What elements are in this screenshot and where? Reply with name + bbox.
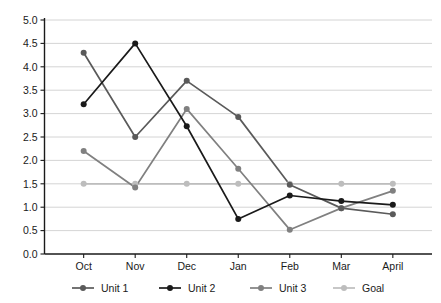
y-tick-label: 3.5 [23, 84, 38, 96]
gridlines [45, 20, 433, 231]
data-point [287, 182, 293, 188]
y-tick-label: 3.0 [23, 107, 38, 119]
data-point [81, 101, 87, 107]
x-tick-label: April [382, 260, 403, 272]
data-point [184, 123, 190, 129]
data-point [235, 166, 241, 172]
series-line-unit-1 [84, 53, 393, 214]
data-point [390, 211, 396, 217]
y-tick-label: 1.0 [23, 201, 38, 213]
data-point [132, 185, 138, 191]
y-tick-label: 1.5 [23, 178, 38, 190]
y-tick-label: 2.0 [23, 154, 38, 166]
legend-swatch-marker [167, 285, 173, 291]
x-tick-label: Feb [281, 260, 299, 272]
data-point [338, 205, 344, 211]
data-point [338, 198, 344, 204]
data-point [390, 188, 396, 194]
data-point [287, 227, 293, 233]
y-tick-label: 0.0 [23, 248, 38, 260]
data-point [81, 148, 87, 154]
y-tick-label: 4.0 [23, 61, 38, 73]
data-point [184, 106, 190, 112]
data-point [338, 181, 344, 187]
x-tick-label: Mar [332, 260, 351, 272]
x-tick-label: Jan [230, 260, 247, 272]
data-point [81, 181, 87, 187]
data-point [390, 202, 396, 208]
y-tick-label: 2.5 [23, 131, 38, 143]
chart-canvas: 5.04.54.03.53.02.52.01.51.00.50.0 OctNov… [0, 0, 441, 303]
data-point [132, 134, 138, 140]
data-point [184, 181, 190, 187]
data-point [235, 181, 241, 187]
y-tick-label: 5.0 [23, 14, 38, 26]
y-axis: 5.04.54.03.53.02.52.01.51.00.50.0 [23, 14, 45, 260]
chart-legend: Unit 1Unit 2Unit 3Goal [72, 282, 384, 294]
legend-swatch-marker [341, 285, 347, 291]
data-point [235, 216, 241, 222]
legend-label-goal: Goal [362, 282, 384, 294]
data-point [132, 40, 138, 46]
data-point [81, 50, 87, 56]
series-markers [81, 40, 396, 232]
legend-swatch-marker [80, 285, 86, 291]
y-tick-label: 4.5 [23, 37, 38, 49]
x-axis: OctNovDecJanFebMarApril [45, 254, 433, 272]
legend-label-unit-3: Unit 3 [279, 282, 307, 294]
data-point [235, 114, 241, 120]
x-tick-label: Dec [177, 260, 196, 272]
series-lines [84, 43, 393, 229]
legend-label-unit-2: Unit 2 [188, 282, 216, 294]
data-point [287, 193, 293, 199]
y-tick-label: 0.5 [23, 224, 38, 236]
series-line-unit-2 [84, 43, 393, 219]
data-point [184, 78, 190, 84]
x-tick-label: Nov [126, 260, 145, 272]
legend-label-unit-1: Unit 1 [101, 282, 129, 294]
line-chart: 5.04.54.03.53.02.52.01.51.00.50.0 OctNov… [0, 0, 441, 303]
legend-swatch-marker [258, 285, 264, 291]
data-point [390, 181, 396, 187]
x-tick-label: Oct [75, 260, 91, 272]
